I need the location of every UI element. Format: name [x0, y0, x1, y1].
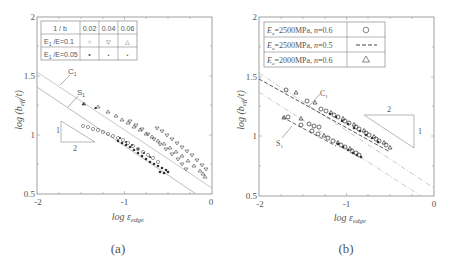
dashed-series-s1 [282, 117, 336, 146]
series-a-filled [82, 103, 169, 175]
legend-row-label: Ea=2500MPa, n=0.5 [266, 41, 333, 51]
y-axis-label: log (beff/t) [235, 90, 248, 130]
ytick-label: 1 [31, 130, 36, 140]
xtick-label: -2 [256, 199, 264, 209]
xtick-label: -1 [343, 199, 351, 209]
legend-row-label: Ea=2500MPa, n=0.6 [266, 26, 333, 36]
reference-line-upper [259, 73, 434, 188]
caption-a: (a) [111, 241, 125, 256]
xtick-label: 0 [432, 199, 437, 209]
slope-triangle [364, 115, 414, 148]
triangle-run: 2 [73, 144, 77, 153]
legend-header: 0.06 [121, 25, 135, 32]
figure: 2 1.5 1 0.5 -2 -1 0 log εedge log (beff/… [0, 0, 451, 268]
triangle-rise: 1 [56, 126, 60, 135]
triangle-rise: 1 [418, 127, 422, 136]
curve-label-s1: S1 [77, 88, 85, 98]
series-a-upper [82, 102, 208, 178]
ytick-label: 1.5 [246, 72, 258, 82]
ytick-label: 1 [253, 131, 258, 141]
y-axis-label: log (beff/t) [13, 90, 26, 130]
legend-header: 1 / b [53, 25, 67, 32]
legend-table-a: 1 / b 0.02 0.04 0.06 E1 /E=0.1 E1 /E=0.0… [41, 21, 137, 60]
legend-marker-dot-icon: • [108, 52, 110, 58]
x-axis-label: log εedge [112, 211, 144, 224]
xtick-label: -2 [34, 197, 42, 207]
panel-a: 2 1.5 1 0.5 -2 -1 0 log εedge log (beff/… [13, 12, 214, 256]
curve-label-c1: C1 [68, 67, 77, 77]
legend-marker-triangle-down-icon: ▽ [106, 39, 111, 45]
legend-marker-triangle-up-icon: △ [125, 39, 130, 45]
legend-marker-circle-icon: ○ [88, 39, 92, 45]
triangle-run: 2 [387, 105, 391, 114]
series-a-circles [81, 124, 159, 163]
slope-triangle [61, 121, 95, 142]
series-b-upper-dense [329, 113, 380, 144]
caption-b: (b) [338, 241, 353, 256]
legend-table-b: Ea=2500MPa, n=0.6 Ea=2500MPa, n=0.5 Ea=2… [264, 22, 385, 67]
ytick-label: 2 [31, 12, 36, 22]
curve-label-c1: C1 [320, 89, 328, 99]
x-axis-label: log εedge [334, 212, 366, 225]
legend-header: 0.04 [102, 25, 116, 32]
legend-header: 0.02 [83, 25, 97, 32]
ytick-label: 1.5 [24, 71, 36, 81]
ytick-label: 2 [253, 12, 258, 22]
xtick-label: -1 [121, 197, 129, 207]
legend-row-label: Ea=2000MPa, n=0.6 [266, 56, 333, 66]
curve-label-s1: S1 [276, 139, 283, 149]
xtick-label: 0 [209, 197, 214, 207]
panel-b: 2 1.5 1 0.5 -2 -1 0 log εedge log (beff/… [235, 12, 437, 256]
legend-marker-dot-icon: • [127, 52, 129, 58]
